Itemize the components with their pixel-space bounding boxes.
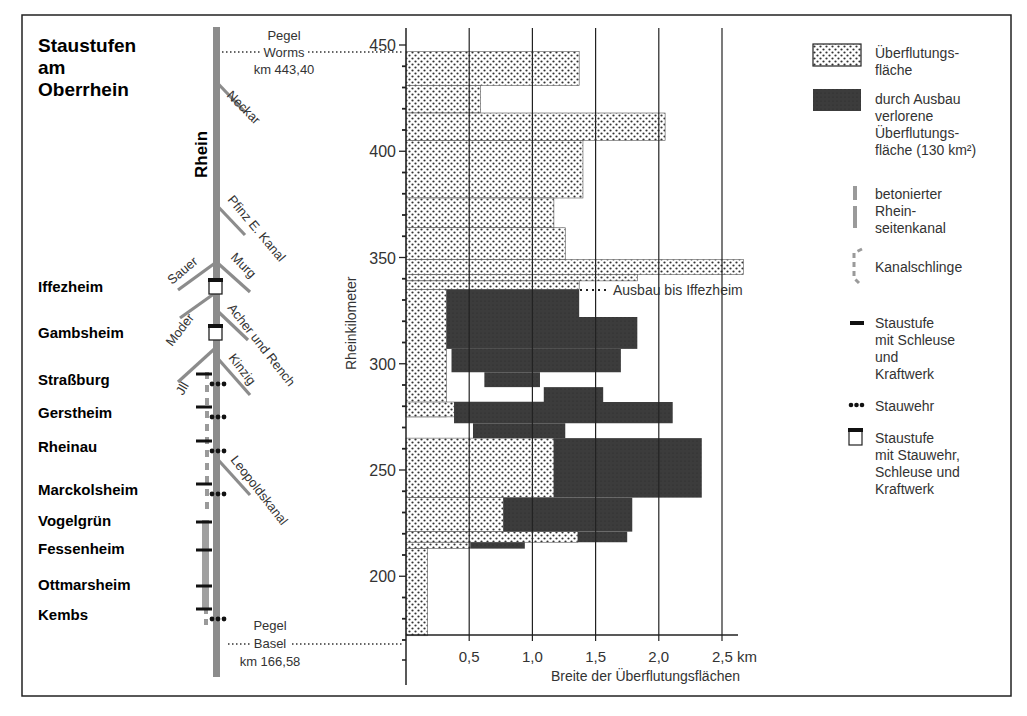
stauwehr-icon: [222, 415, 227, 420]
flood-area-chart: 2002503003504004500,51,01,52,02,5 km Rhe…: [343, 28, 757, 685]
legend-text: seitenkanal: [875, 220, 946, 236]
betonierter-seitenkanal: [202, 520, 209, 608]
lost-area-bar: [446, 289, 579, 317]
title-line: Oberrhein: [38, 79, 129, 100]
x-axis-label: Breite der Überflutungsflächen: [551, 667, 740, 684]
legend-item-loop: Kanalschlinge: [854, 249, 962, 284]
station-name: Straßburg: [38, 371, 110, 388]
flood-area-bar: [406, 549, 427, 636]
staustufe-lock-icon: [196, 440, 212, 443]
stauwehr-icon: [849, 403, 854, 408]
tributary-label: Moder: [163, 310, 198, 349]
stauwehr-icon: [210, 449, 215, 454]
legend-text: Kraftwerk: [875, 366, 935, 382]
stauwehr-icon: [854, 403, 859, 408]
stauwehr-icon: [216, 415, 221, 420]
legend-text: betonierter: [875, 186, 942, 202]
y-tick-label: 350: [369, 250, 396, 267]
flood-area-bar: [406, 228, 565, 260]
legend-text: und: [875, 349, 898, 365]
legend-text: Staustufe: [875, 315, 934, 331]
y-tick-label: 300: [369, 356, 396, 373]
flood-area-bar: [406, 141, 583, 198]
lost-area-bar: [503, 498, 632, 532]
stauwehr-icon: [216, 492, 221, 497]
flood-area-bar: [406, 281, 579, 290]
flood-area-bar: [406, 532, 578, 543]
station-name: Fessenheim: [38, 540, 125, 557]
tributary-label: Jll: [173, 379, 192, 397]
legend-text: Schleuse und: [875, 464, 960, 480]
flood-area-bar: [406, 542, 470, 548]
legend-item-flood: Überflutungs-fläche: [813, 44, 959, 78]
stauwehr-icon: [222, 382, 227, 387]
tributary-jll: [178, 347, 217, 382]
pegel-label: Pegel: [267, 28, 300, 43]
tributary-label: Leopoldskanal: [228, 453, 292, 528]
pegel-label: Pegel: [253, 618, 286, 633]
y-tick-label: 250: [369, 462, 396, 479]
canal-icon: [853, 186, 857, 200]
staustufe-full-icon: [209, 326, 222, 340]
legend-text: durch Ausbau: [875, 91, 961, 107]
x-tick-label: 1,5: [585, 648, 606, 665]
legend-text: Stauwehr: [875, 398, 934, 414]
lost-area-bar: [554, 438, 702, 498]
x-tick-label: 2,5 km: [712, 648, 757, 665]
lost-area-bar: [544, 387, 603, 402]
stauwehr-icon: [222, 492, 227, 497]
legend-text: Überflutungs-: [875, 44, 959, 61]
flood-area-bar: [406, 275, 637, 281]
y-axis-label: Rheinkilometer: [343, 276, 359, 370]
staustufe-lock-icon: [196, 373, 212, 376]
flood-area-bar: [406, 198, 554, 228]
pegel-label: Worms: [264, 45, 305, 60]
station-name: Gerstheim: [38, 404, 112, 421]
title-line: Staustufen: [38, 35, 136, 56]
lost-area-bar: [454, 402, 673, 423]
legend-text: Staustufe: [875, 430, 934, 446]
staustufe-full-icon: [209, 280, 222, 294]
legend-item-lock: Staustufemit SchleuseundKraftwerk: [850, 315, 955, 382]
tributary-label: Acher und Rench: [225, 301, 299, 389]
tributary-label: Sauer: [164, 253, 201, 287]
seitenkanal: [202, 372, 209, 630]
station-name: Gambsheim: [38, 324, 124, 341]
legend: Überflutungs-flächedurch Ausbauverlorene…: [813, 44, 976, 497]
staustufe-lock-icon: [850, 321, 864, 325]
pegel-label: Basel: [254, 636, 287, 651]
river-label: Rhein: [192, 131, 211, 178]
kanalschlinge-icon: [854, 249, 862, 284]
station-symbols: [196, 278, 226, 621]
annotation-ausbau: Ausbau bis Iffezheim: [613, 282, 743, 298]
page-title: Staustufen am Oberrhein: [38, 35, 136, 100]
flood-area-bar: [406, 260, 743, 275]
staustufe-lock-icon: [196, 549, 212, 552]
flood-area-bar: [406, 51, 579, 85]
legend-text: verlorene: [875, 108, 934, 124]
chart-svg: Staustufen am Oberrhein Rhein NeckarPfin…: [0, 0, 1027, 716]
flood-area-bar: [406, 438, 554, 498]
legend-item-full: Staustufemit Stauwehr,Schleuse undKraftw…: [848, 428, 960, 497]
lost-area-bar: [484, 372, 540, 387]
x-tick-label: 0,5: [459, 648, 480, 665]
tributary-label: Neckar: [224, 88, 264, 128]
stauwehr-icon: [216, 382, 221, 387]
x-tick-label: 1,0: [522, 648, 543, 665]
station-name: Ottmarsheim: [38, 576, 131, 593]
station-name: Vogelgrün: [38, 512, 111, 529]
station-name: Iffezheim: [38, 278, 103, 295]
pegel-km: km 166,58: [240, 654, 301, 669]
flood-area-bar: [406, 498, 503, 532]
stauwehr-icon: [222, 617, 227, 622]
lost-area-bar: [446, 317, 637, 349]
figure: Staustufen am Oberrhein Rhein NeckarPfin…: [0, 0, 1027, 716]
legend-text: Kanalschlinge: [875, 259, 962, 275]
staustufe-lock-icon: [196, 406, 212, 409]
stauwehr-icon: [210, 415, 215, 420]
flood-swatch-icon: [813, 44, 861, 66]
lost-swatch-icon: [813, 89, 861, 111]
station-names: IffezheimGambsheimStraßburgGerstheimRhei…: [38, 278, 138, 623]
pegel-km: km 443,40: [254, 62, 315, 77]
y-tick-label: 450: [369, 37, 396, 54]
